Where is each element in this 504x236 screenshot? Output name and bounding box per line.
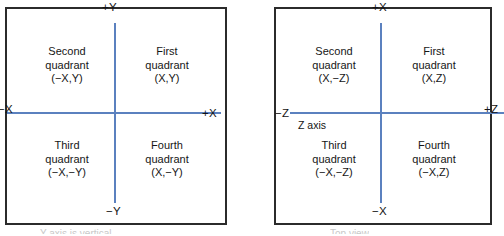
caption-partial-xy: Y axis is vertical bbox=[40, 228, 112, 234]
diagram-xz-plane: Second quadrant (X,−Z) First quadrant (X… bbox=[274, 7, 492, 225]
axis-label-positive-z: +Z bbox=[484, 103, 498, 116]
quadrant-first-label: First quadrant (X,Y) bbox=[119, 45, 215, 86]
quadrant-third-label: Third quadrant (−X,−Y) bbox=[19, 139, 115, 180]
quadrant-second-label: Second quadrant (X,−Z) bbox=[286, 45, 382, 86]
axis-label-positive-y: +Y bbox=[102, 1, 117, 14]
quadrant-fourth-label: Fourth quadrant (−X,Z) bbox=[386, 139, 482, 180]
axis-label-positive-x: +X bbox=[202, 107, 217, 120]
axis-label-negative-y: −Y bbox=[106, 205, 121, 218]
axis-label-negative-x: −X bbox=[0, 103, 13, 116]
quadrant-second-label: Second quadrant (−X,Y) bbox=[19, 45, 115, 86]
diagram-xy-plane: Second quadrant (−X,Y) First quadrant (X… bbox=[5, 7, 227, 225]
axis-label-positive-x: +X bbox=[372, 1, 387, 14]
quadrant-first-label: First quadrant (X,Z) bbox=[386, 45, 482, 86]
axis-label-negative-x: −X bbox=[372, 205, 387, 218]
axis-label-negative-z: −Z bbox=[275, 107, 289, 120]
horizontal-axis-line-z bbox=[290, 112, 504, 114]
axis-note-z-axis: Z axis bbox=[298, 119, 326, 131]
quadrant-fourth-label: Fourth quadrant (X,−Y) bbox=[119, 139, 215, 180]
caption-partial-xz: Top view bbox=[330, 228, 369, 234]
horizontal-axis-line-x bbox=[7, 112, 221, 114]
quadrant-third-label: Third quadrant (−X,−Z) bbox=[286, 139, 382, 180]
